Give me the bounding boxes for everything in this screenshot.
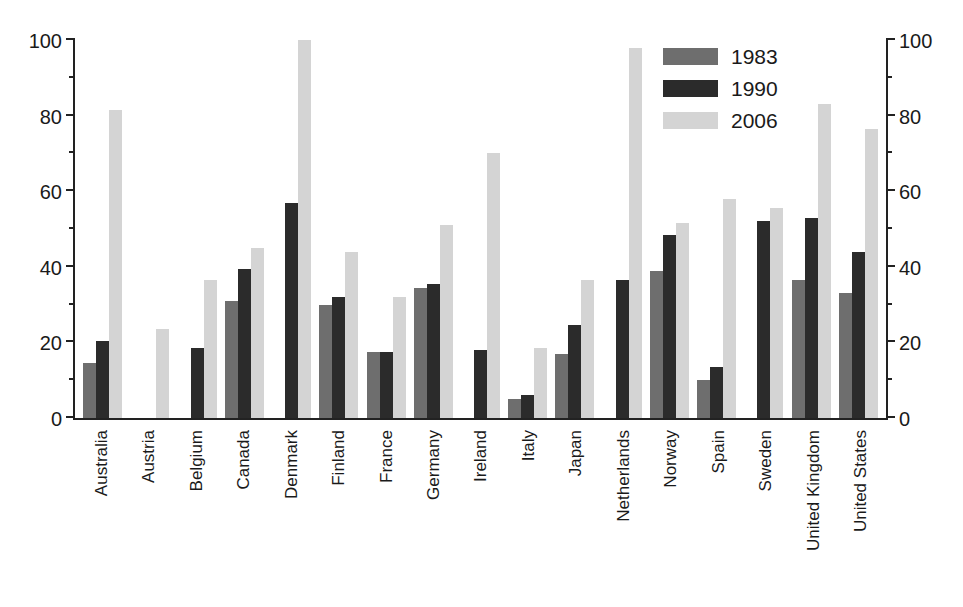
y-tick-minor-right-70 — [886, 151, 892, 153]
x-label-cell: United States — [837, 424, 884, 604]
x-axis-label-denmark: Denmark — [282, 430, 299, 499]
bar-2006-norway — [676, 223, 689, 418]
x-label-cell: France — [362, 424, 409, 604]
y-tick-left-80 — [66, 114, 75, 116]
legend-label-1983: 1983 — [731, 46, 778, 67]
legend-swatch-2006 — [663, 112, 718, 129]
x-label-cell: Italy — [504, 424, 551, 604]
y-label-right-80: 80 — [899, 107, 921, 127]
bar-1990-canada — [238, 269, 251, 418]
y-label-left-60: 60 — [40, 182, 62, 202]
bar-1990-united-states — [852, 252, 865, 418]
x-label-cell: Belgium — [172, 424, 219, 604]
x-axis-label-japan: Japan — [567, 430, 584, 476]
y-tick-right-40 — [886, 265, 895, 267]
y-tick-minor-right-50 — [886, 227, 892, 229]
bar-group-austria — [126, 40, 173, 418]
y-label-right-60: 60 — [899, 182, 921, 202]
legend-item-1990[interactable]: 1990 — [663, 78, 778, 99]
x-axis-label-sweden: Sweden — [757, 430, 774, 491]
y-tick-left-60 — [66, 189, 75, 191]
bar-1983-norway — [650, 271, 663, 418]
bar-1990-japan — [568, 325, 581, 418]
x-axis-label-united-kingdom: United Kingdom — [804, 430, 821, 551]
y-tick-left-0 — [66, 416, 75, 418]
bar-2006-united-kingdom — [818, 104, 831, 418]
bar-1983-france — [367, 352, 380, 418]
x-axis-label-united-states: United States — [852, 430, 869, 532]
x-axis-label-ireland: Ireland — [472, 430, 489, 482]
bar-2006-united-states — [865, 129, 878, 418]
bar-2006-spain — [723, 199, 736, 418]
x-label-cell: Netherlands — [599, 424, 646, 604]
bar-1983-canada — [225, 301, 238, 418]
bar-2006-japan — [581, 280, 594, 418]
x-axis-label-france: France — [377, 430, 394, 483]
x-label-cell: Spain — [694, 424, 741, 604]
bar-2006-canada — [251, 248, 264, 418]
x-label-cell: United Kingdom — [789, 424, 836, 604]
bar-1990-belgium — [191, 348, 204, 418]
y-tick-left-40 — [66, 265, 75, 267]
bar-group-united-kingdom — [788, 40, 835, 418]
bar-2006-denmark — [298, 40, 311, 418]
bar-2006-ireland — [487, 153, 500, 418]
bar-group-canada — [221, 40, 268, 418]
x-label-cell: Austria — [124, 424, 171, 604]
bar-group-japan — [551, 40, 598, 418]
bar-2006-france — [393, 297, 406, 418]
y-label-left-80: 80 — [40, 107, 62, 127]
x-axis-label-australia: Australia — [92, 430, 109, 496]
bar-group-finland — [315, 40, 362, 418]
bar-group-france — [362, 40, 409, 418]
bar-1990-ireland — [474, 350, 487, 418]
bar-group-italy — [504, 40, 551, 418]
x-axis-label-netherlands: Netherlands — [614, 430, 631, 522]
y-tick-left-20 — [66, 340, 75, 342]
legend-item-1983[interactable]: 1983 — [663, 46, 778, 67]
x-axis-label-canada: Canada — [235, 430, 252, 490]
x-label-cell: Japan — [552, 424, 599, 604]
bar-group-australia — [79, 40, 126, 418]
x-axis-labels: AustraliaAustriaBelgiumCanadaDenmarkFinl… — [73, 424, 888, 604]
y-tick-right-80 — [886, 114, 895, 116]
y-tick-right-60 — [886, 189, 895, 191]
bar-group-united-states — [835, 40, 882, 418]
legend-item-2006[interactable]: 2006 — [663, 110, 778, 131]
bar-2006-austria — [156, 329, 169, 418]
y-tick-left-100 — [66, 38, 75, 40]
y-tick-minor-right-30 — [886, 303, 892, 305]
bar-chart-figure: 020406080100 020406080100 AustraliaAustr… — [0, 0, 963, 607]
y-label-left-100: 100 — [29, 31, 62, 51]
bar-1983-germany — [414, 288, 427, 418]
bar-1983-japan — [555, 354, 568, 418]
bar-2006-finland — [345, 252, 358, 418]
y-label-left-20: 20 — [40, 333, 62, 353]
x-axis-label-norway: Norway — [662, 430, 679, 488]
x-label-cell: Norway — [647, 424, 694, 604]
x-label-cell: Finland — [314, 424, 361, 604]
bar-1990-netherlands — [616, 280, 629, 418]
y-label-right-0: 0 — [899, 409, 910, 429]
bar-2006-australia — [109, 110, 122, 418]
legend-label-1990: 1990 — [731, 78, 778, 99]
x-axis-label-germany: Germany — [425, 430, 442, 500]
x-label-cell: Germany — [409, 424, 456, 604]
bar-1990-denmark — [285, 203, 298, 418]
y-tick-right-100 — [886, 38, 895, 40]
legend-swatch-1990 — [663, 80, 718, 97]
x-label-cell: Canada — [219, 424, 266, 604]
y-tick-right-20 — [886, 340, 895, 342]
bar-1983-italy — [508, 399, 521, 418]
bar-1983-united-states — [839, 293, 852, 418]
legend-swatch-1983 — [663, 48, 718, 65]
legend: 198319902006 — [663, 46, 778, 131]
bar-2006-sweden — [770, 208, 783, 418]
bar-group-belgium — [173, 40, 220, 418]
bar-group-germany — [410, 40, 457, 418]
bar-group-ireland — [457, 40, 504, 418]
bar-group-netherlands — [599, 40, 646, 418]
bar-1983-australia — [83, 363, 96, 418]
x-axis-label-spain: Spain — [709, 430, 726, 473]
y-label-right-40: 40 — [899, 258, 921, 278]
